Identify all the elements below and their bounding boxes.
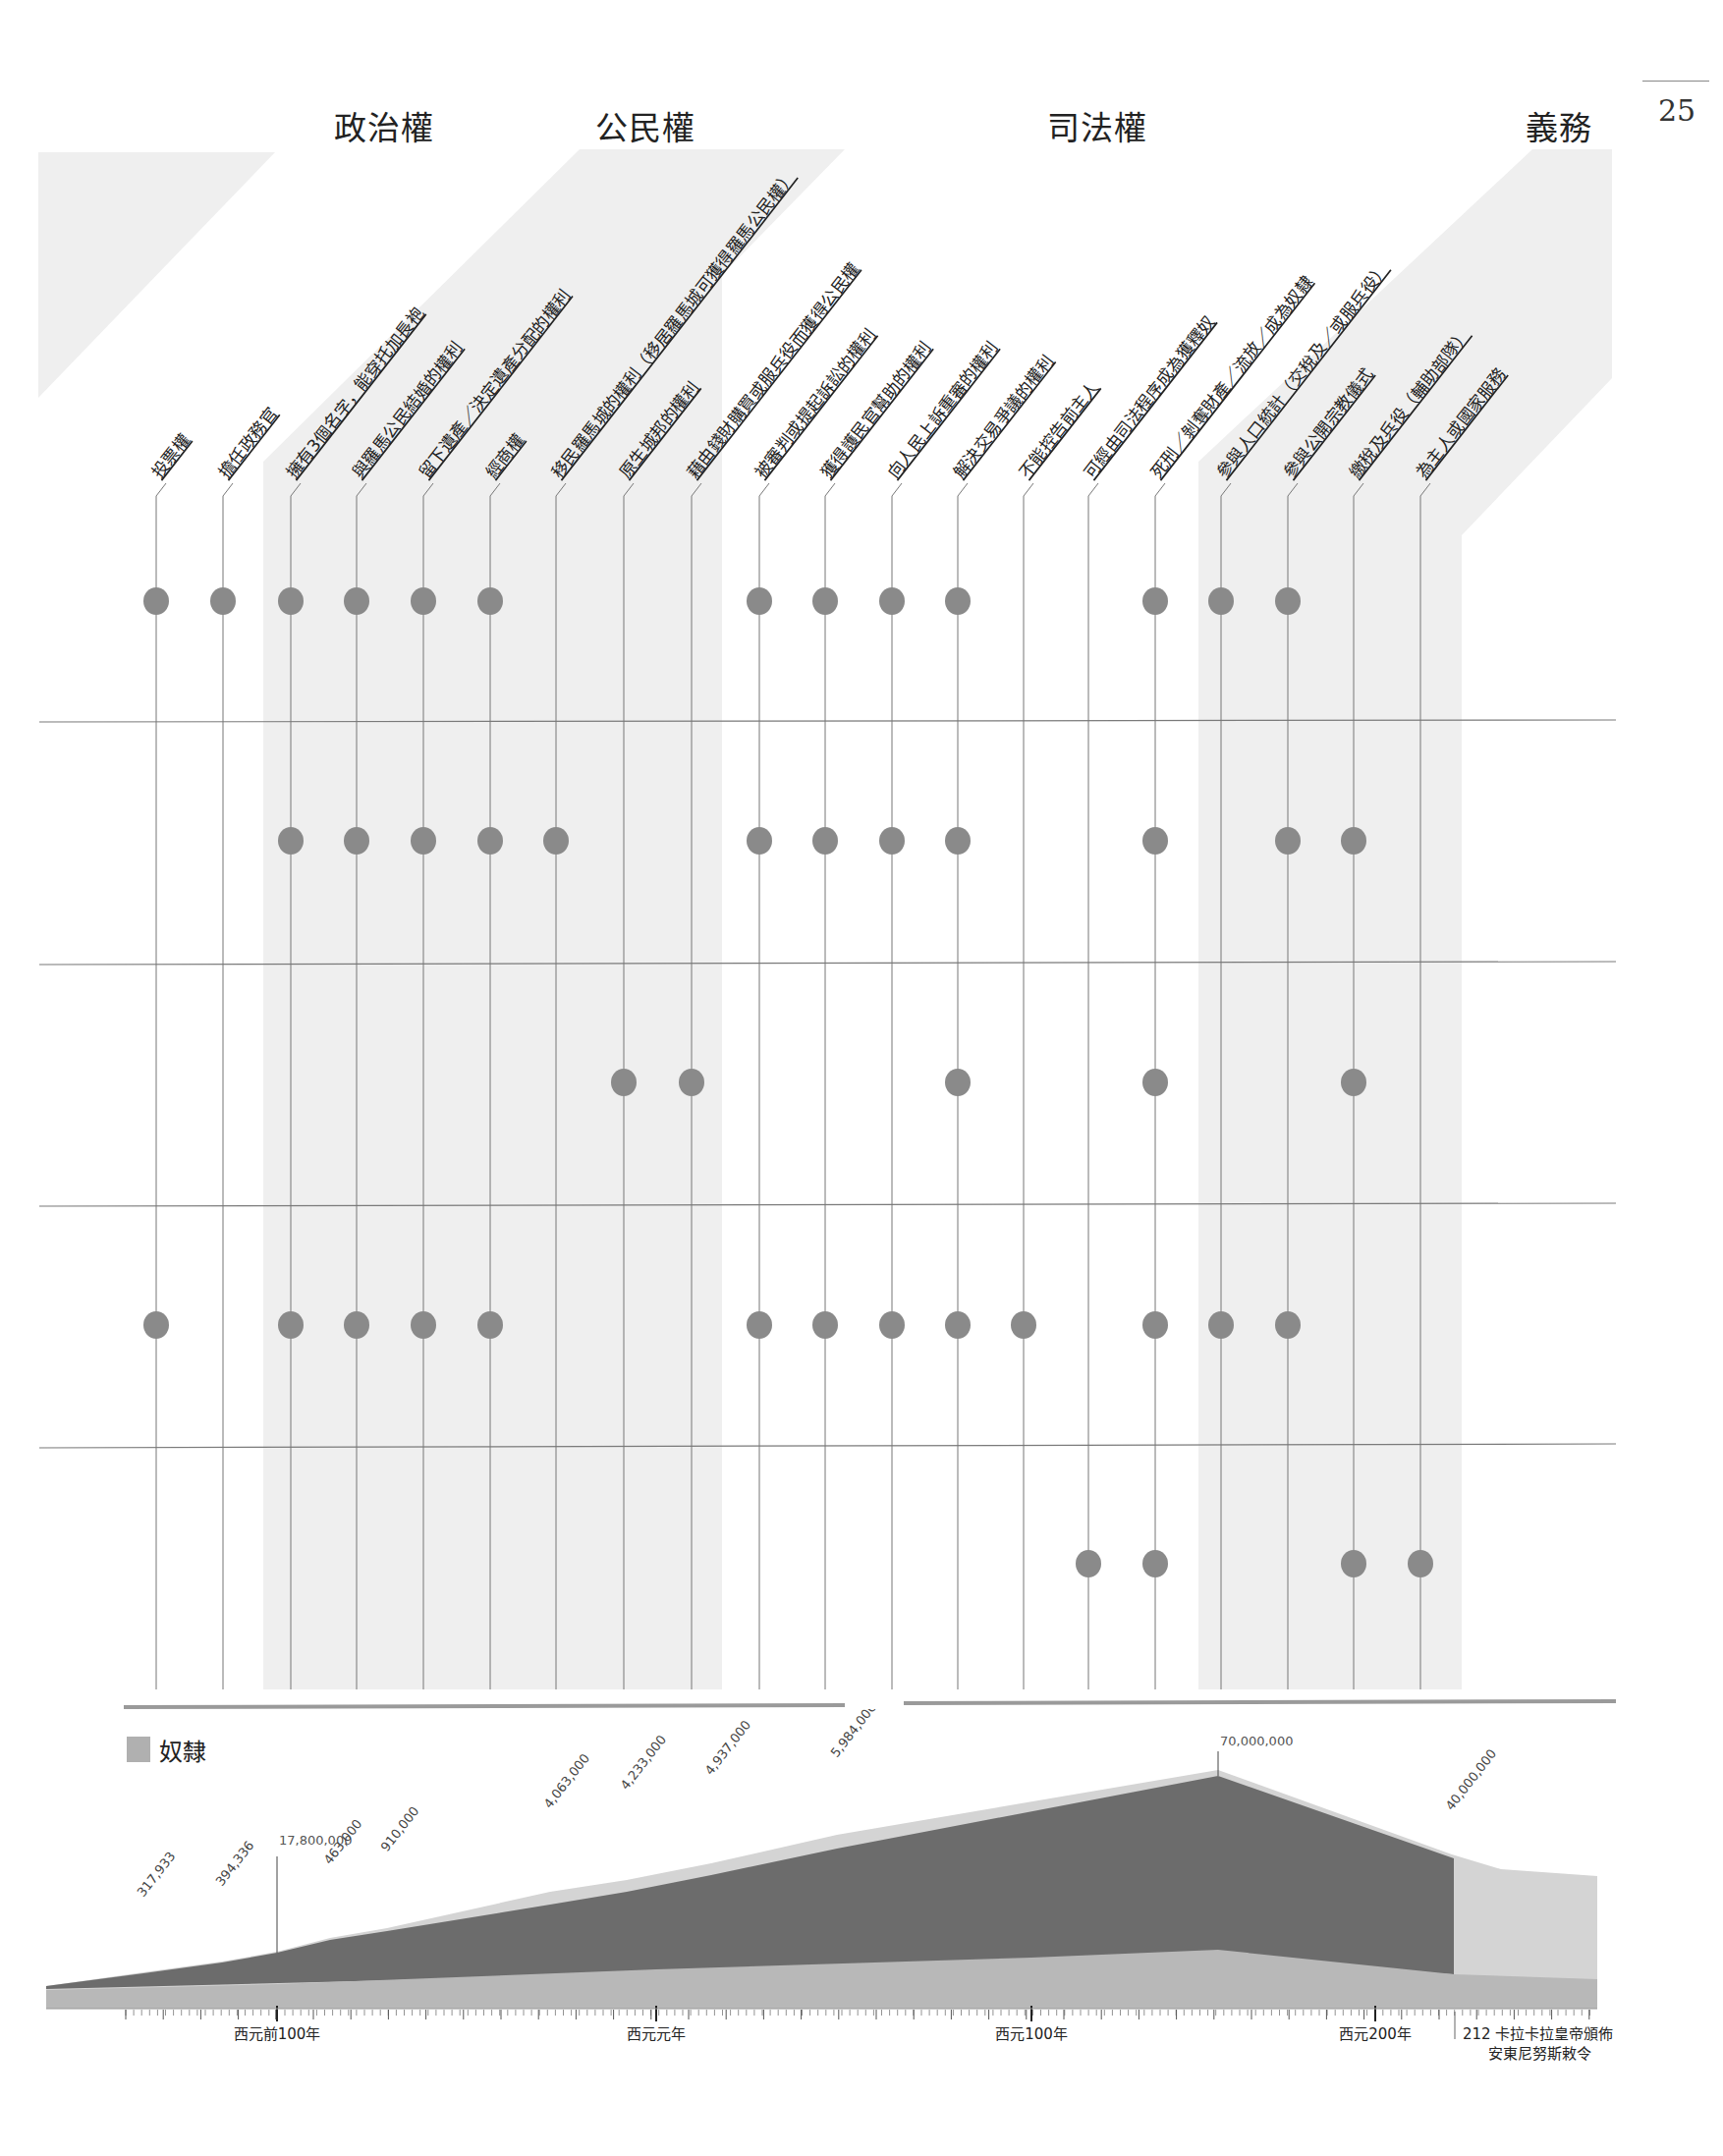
dot-r1-c6 xyxy=(543,827,569,855)
dot-r4-c15 xyxy=(1142,1550,1168,1577)
dot-r3-c5 xyxy=(477,1311,503,1339)
dot-r0-c15 xyxy=(1142,587,1168,615)
x-axis-labels: 西元前100年西元元年西元100年西元200年212 卡拉卡拉皇帝頒佈安東尼努斯… xyxy=(234,2025,1614,2063)
rights-matrix: 投票權擔任政務官擁有3個名字，能穿托加長袍與羅馬公民結婚的權利留下遺產／決定遺產… xyxy=(0,0,1723,1729)
bottom-rule-right xyxy=(904,1701,1616,1703)
column-13: 不能控告前主人 xyxy=(1015,377,1102,1689)
annotation: 317,933 xyxy=(135,1849,179,1900)
dot-r3-c10 xyxy=(812,1311,838,1339)
dot-r0-c17 xyxy=(1275,587,1301,615)
dot-r3-c15 xyxy=(1142,1311,1168,1339)
column-10: 獲得護民官幫助的權利 xyxy=(816,338,934,1689)
dot-r1-c2 xyxy=(278,827,304,855)
dot-r0-c11 xyxy=(879,587,905,615)
dot-r0-c2 xyxy=(278,587,304,615)
column-label: 向人民上訴重審的權利 xyxy=(883,338,1001,481)
annotation: 394,336 xyxy=(213,1838,257,1889)
dot-r1-c5 xyxy=(477,827,503,855)
dot-r1-c9 xyxy=(747,827,772,855)
x-tick-label: 西元前100年 xyxy=(234,2025,321,2043)
event-label-line1: 212 卡拉卡拉皇帝頒佈 xyxy=(1463,2025,1613,2043)
dot-r3-c12 xyxy=(945,1311,971,1339)
dot-r2-c7 xyxy=(611,1069,637,1096)
slave-population-chart: 奴隸 317,933394,33617,800,000463,000910,00… xyxy=(0,1709,1723,2156)
dot-r0-c4 xyxy=(411,587,436,615)
column-label: 投票權 xyxy=(147,430,194,482)
column-11: 向人民上訴重審的權利 xyxy=(883,338,1001,1689)
column-label: 可經由司法程序成為獲釋奴 xyxy=(1080,311,1218,481)
dot-r3-c9 xyxy=(747,1311,772,1339)
dot-r4-c18 xyxy=(1341,1550,1366,1577)
bottom-rule-left xyxy=(124,1705,845,1707)
annotation: 5,984,000 xyxy=(828,1709,880,1760)
dot-r3-c3 xyxy=(344,1311,369,1339)
dot-r0-c12 xyxy=(945,587,971,615)
dot-r3-c0 xyxy=(143,1311,169,1339)
annotation: 40,000,000 xyxy=(1443,1746,1500,1813)
column-9: 被審判或提起訴訟的權利 xyxy=(750,325,879,1689)
dot-r3-c13 xyxy=(1011,1311,1036,1339)
column-12: 解決交易爭議的權利 xyxy=(949,352,1057,1689)
event-label-line2: 安東尼努斯敕令 xyxy=(1488,2045,1591,2063)
column-label: 被審判或提起訴訟的權利 xyxy=(750,325,879,482)
dot-r1-c17 xyxy=(1275,827,1301,855)
column-14: 可經由司法程序成為獲釋奴 xyxy=(1080,311,1218,1689)
annotation: 4,937,000 xyxy=(702,1717,754,1777)
annotation: 4,233,000 xyxy=(618,1732,670,1792)
dot-r4-c14 xyxy=(1076,1550,1101,1577)
dot-r1-c15 xyxy=(1142,827,1168,855)
dot-r1-c11 xyxy=(879,827,905,855)
dot-r0-c0 xyxy=(143,587,169,615)
dot-r3-c11 xyxy=(879,1311,905,1339)
dot-r2-c15 xyxy=(1142,1069,1168,1096)
dot-r0-c10 xyxy=(812,587,838,615)
annotation: 4,063,000 xyxy=(541,1750,593,1810)
dot-r0-c3 xyxy=(344,587,369,615)
dot-r2-c18 xyxy=(1341,1069,1366,1096)
dot-r4-c19 xyxy=(1408,1550,1433,1577)
x-tick-label: 西元200年 xyxy=(1339,2025,1412,2043)
dot-r2-c12 xyxy=(945,1069,971,1096)
dot-r1-c3 xyxy=(344,827,369,855)
dot-r3-c17 xyxy=(1275,1311,1301,1339)
dot-r1-c12 xyxy=(945,827,971,855)
dot-r3-c16 xyxy=(1208,1311,1234,1339)
dot-r0-c5 xyxy=(477,587,503,615)
dot-r3-c4 xyxy=(411,1311,436,1339)
dot-r0-c1 xyxy=(210,587,236,615)
dot-r2-c8 xyxy=(679,1069,704,1096)
dot-r1-c4 xyxy=(411,827,436,855)
x-tick-label: 西元元年 xyxy=(627,2025,686,2043)
column-label: 獲得護民官幫助的權利 xyxy=(816,338,934,481)
annotation: 70,000,000 xyxy=(1220,1734,1293,1748)
dot-r1-c10 xyxy=(812,827,838,855)
legend-label: 奴隸 xyxy=(159,1739,206,1766)
dot-r1-c18 xyxy=(1341,827,1366,855)
x-tick-label: 西元100年 xyxy=(995,2025,1068,2043)
dot-r0-c16 xyxy=(1208,587,1234,615)
annotation: 910,000 xyxy=(378,1803,422,1854)
column-0: 投票權 xyxy=(147,430,194,1689)
dot-r3-c2 xyxy=(278,1311,304,1339)
legend-swatch xyxy=(127,1737,150,1762)
dot-r0-c9 xyxy=(747,587,772,615)
